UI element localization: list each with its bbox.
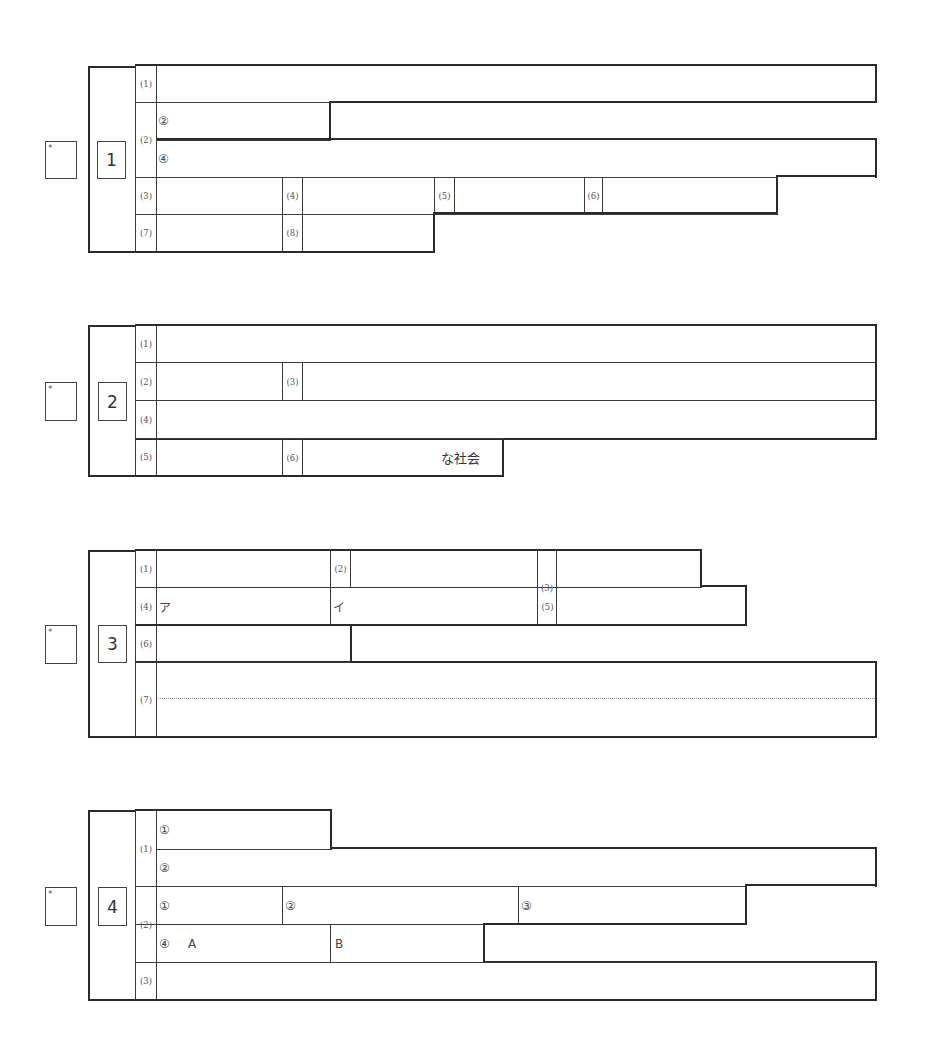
score-box-2[interactable]: * bbox=[45, 382, 77, 421]
answer-field-2-2[interactable] bbox=[158, 365, 281, 399]
answer-field-1-6[interactable] bbox=[604, 179, 775, 213]
answer-field-1-3[interactable] bbox=[158, 179, 281, 213]
question-label: (3) bbox=[282, 363, 303, 400]
answer-field-2-4[interactable] bbox=[158, 402, 874, 436]
answer-suffix: な社会 bbox=[420, 440, 480, 474]
answer-field-1-1[interactable] bbox=[158, 67, 874, 101]
answer-field-4-1-1[interactable] bbox=[178, 812, 328, 846]
answer-field-4-2-2[interactable] bbox=[304, 889, 516, 923]
question-label: (5) bbox=[538, 588, 557, 625]
answer-field-2-1[interactable] bbox=[158, 327, 874, 361]
cell-divider bbox=[518, 886, 519, 924]
answer-field-1-2b[interactable] bbox=[178, 142, 873, 176]
question-label: (4) bbox=[135, 401, 157, 438]
closed-area bbox=[350, 625, 748, 663]
section-number-4: 4 bbox=[98, 887, 127, 926]
score-box-3[interactable]: * bbox=[45, 625, 77, 664]
question-label: (5) bbox=[135, 439, 157, 475]
answer-field-4-1-2[interactable] bbox=[178, 851, 873, 885]
sub-mark: ア bbox=[159, 588, 179, 625]
answer-field-3-1[interactable] bbox=[158, 552, 329, 586]
score-box-4[interactable]: * bbox=[45, 887, 77, 926]
question-label: (6) bbox=[135, 626, 157, 662]
closed-area bbox=[329, 101, 877, 140]
answer-field-4-2-4a[interactable] bbox=[204, 927, 328, 961]
score-box-1[interactable]: * bbox=[45, 141, 77, 179]
sub-mark: イ bbox=[333, 588, 353, 625]
question-label: (5) bbox=[434, 177, 455, 214]
sub-mark: ① bbox=[159, 887, 179, 924]
cell-divider bbox=[330, 587, 331, 625]
question-label: (2) bbox=[135, 887, 157, 962]
row-divider bbox=[135, 400, 875, 401]
sub-mark: ④ bbox=[158, 140, 178, 177]
row-ledge bbox=[483, 923, 747, 926]
row-ledge bbox=[330, 847, 877, 850]
score-marker: * bbox=[48, 627, 53, 637]
question-label: (2) bbox=[330, 551, 351, 587]
question-label: (6) bbox=[584, 177, 603, 214]
score-marker: * bbox=[48, 889, 53, 899]
answer-field-2-3[interactable] bbox=[304, 365, 874, 399]
answer-field-1-5[interactable] bbox=[456, 179, 583, 213]
answer-field-4-3[interactable] bbox=[158, 964, 874, 998]
section-number-1: 1 bbox=[97, 141, 126, 179]
answer-field-4-2-3[interactable] bbox=[540, 889, 743, 923]
answer-field-1-8[interactable] bbox=[304, 216, 432, 250]
question-label: (1) bbox=[135, 66, 157, 102]
answer-field-3-4a[interactable] bbox=[178, 590, 328, 624]
row-divider bbox=[135, 662, 351, 663]
question-label: (1) bbox=[135, 326, 157, 362]
answer-field-3-6[interactable] bbox=[158, 627, 349, 661]
sub-mark: ② bbox=[159, 849, 179, 886]
sub-mark: ② bbox=[158, 102, 178, 140]
answer-field-4-2-4b[interactable] bbox=[352, 927, 480, 961]
score-marker: * bbox=[48, 143, 53, 153]
answer-field-3-3[interactable] bbox=[558, 552, 699, 586]
cell-divider bbox=[282, 886, 283, 924]
question-label: (7) bbox=[135, 663, 157, 736]
answer-field-2-6[interactable] bbox=[304, 440, 419, 474]
question-label: (3) bbox=[135, 177, 157, 214]
question-label: (2) bbox=[135, 363, 157, 400]
cell-divider bbox=[330, 924, 331, 962]
row-divider bbox=[157, 849, 332, 850]
question-label: (1) bbox=[135, 811, 157, 887]
question-label: (4) bbox=[135, 588, 157, 625]
sub-mark: ② bbox=[285, 887, 305, 924]
question-label: (7) bbox=[135, 214, 157, 251]
sub-mark: B bbox=[335, 925, 349, 962]
row-divider bbox=[135, 362, 875, 363]
answer-field-1-2a[interactable] bbox=[178, 104, 328, 138]
sub-mark: ④ bbox=[159, 925, 179, 962]
sub-mark: A bbox=[188, 925, 202, 962]
section-number-2: 2 bbox=[98, 382, 127, 421]
answer-field-1-4[interactable] bbox=[304, 179, 432, 213]
row-divider bbox=[157, 140, 331, 141]
question-label: (4) bbox=[282, 177, 303, 214]
section-number-3: 3 bbox=[98, 625, 127, 663]
answer-field-3-7[interactable] bbox=[158, 664, 874, 735]
answer-field-4-2-1[interactable] bbox=[178, 889, 281, 923]
answer-field-1-7[interactable] bbox=[158, 216, 281, 250]
row-ledge bbox=[433, 212, 778, 215]
question-label: (8) bbox=[282, 214, 303, 251]
score-marker: * bbox=[48, 384, 53, 394]
answer-field-3-4b[interactable] bbox=[352, 590, 536, 624]
row-ledge bbox=[776, 175, 877, 178]
answer-field-3-2[interactable] bbox=[352, 552, 536, 586]
row-ledge bbox=[745, 884, 877, 887]
question-label: (1) bbox=[135, 551, 157, 587]
sub-mark: ① bbox=[159, 811, 179, 848]
question-label: (6) bbox=[282, 439, 303, 476]
question-label: (2) bbox=[135, 102, 157, 178]
row-ledge bbox=[700, 585, 747, 588]
answer-field-2-5[interactable] bbox=[158, 440, 281, 474]
question-label: (3) bbox=[135, 963, 157, 999]
sub-mark: ③ bbox=[521, 887, 541, 924]
answer-field-3-5[interactable] bbox=[558, 590, 744, 624]
